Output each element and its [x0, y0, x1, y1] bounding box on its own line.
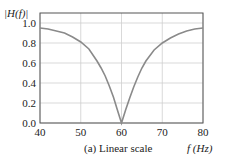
x-tick-label: 60 — [116, 126, 128, 138]
x-tick-label: 70 — [157, 126, 169, 138]
y-tick-label: 0.8 — [22, 37, 36, 49]
y-tick-label: 0.2 — [22, 97, 36, 109]
chart-caption: (a) Linear scale — [84, 142, 153, 155]
x-tick-label: 80 — [198, 126, 210, 138]
x-tick-label: 40 — [35, 126, 47, 138]
y-tick-label: 0.6 — [22, 57, 36, 69]
grid-lines — [40, 13, 203, 123]
y-tick-label: 0.4 — [22, 77, 36, 89]
y-axis-label: |H(f)| — [4, 7, 28, 20]
y-axis-ticks: 0.00.20.40.60.81.0 — [22, 17, 36, 129]
x-axis-label: f (Hz) — [187, 142, 213, 155]
x-tick-label: 50 — [75, 126, 87, 138]
x-axis-ticks: 4050607080 — [35, 126, 210, 138]
frequency-response-chart: 0.00.20.40.60.81.0 4050607080 |H(f)| f (… — [0, 0, 225, 160]
